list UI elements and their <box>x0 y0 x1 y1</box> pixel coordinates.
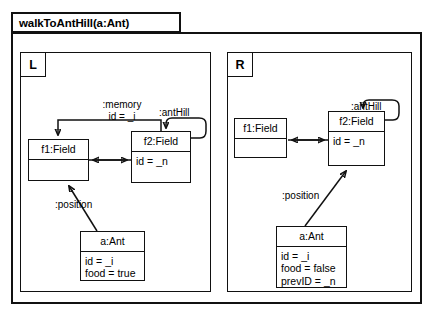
object-l-f1-field[interactable]: f1:Field <box>28 139 89 181</box>
object-l-f2-field[interactable]: f2:Field id = _n <box>131 131 191 183</box>
edge-label-l-memory: :memory id = _i <box>80 99 164 122</box>
object-r-f2-field-attrs: id = _n <box>329 132 384 151</box>
object-r-a-ant-name: a:Ant <box>277 227 346 247</box>
panel-lhs-tag: L <box>20 52 46 77</box>
edge-label-l-memory-role: :memory <box>80 99 164 111</box>
object-r-f1-field[interactable]: f1:Field <box>234 118 287 158</box>
edge-label-r-position: :position <box>282 190 319 202</box>
attribute-row: id = _n <box>333 135 380 148</box>
object-r-f2-field[interactable]: f2:Field id = _n <box>328 111 385 166</box>
object-l-f1-field-name: f1:Field <box>29 140 88 160</box>
object-l-a-ant[interactable]: a:Ant id = _i food = true <box>80 231 145 281</box>
attribute-row: id = _i <box>281 250 342 263</box>
panel-rhs-tag: R <box>227 52 253 77</box>
edge-label-r-anthill: :antHill <box>351 101 382 113</box>
attribute-row: food = true <box>85 267 140 280</box>
object-l-f1-field-attrs <box>29 160 88 180</box>
object-r-f1-field-name: f1:Field <box>235 119 286 139</box>
object-r-f1-field-attrs <box>235 139 286 159</box>
panel-rhs-tag-label: R <box>235 58 244 72</box>
object-l-a-ant-attrs: id = _i food = true <box>81 252 144 283</box>
operation-title-tab: walkToAntHill(a:Ant) <box>11 12 181 33</box>
diagram-canvas: walkToAntHill(a:Ant) L f1:Field f2:Field… <box>0 0 436 323</box>
edge-label-l-position: :position <box>55 199 92 211</box>
attribute-row: prevID = _n <box>281 275 342 288</box>
attribute-row: id = _n <box>136 155 186 168</box>
edge-label-l-memory-value: id = _i <box>80 111 164 123</box>
object-r-a-ant-attrs: id = _i food = false prevID = _n <box>277 247 346 291</box>
object-r-f2-field-name: f2:Field <box>329 112 384 132</box>
attribute-row: food = false <box>281 262 342 275</box>
object-l-f2-field-name: f2:Field <box>132 132 190 152</box>
object-l-f2-field-attrs: id = _n <box>132 152 190 171</box>
object-r-a-ant[interactable]: a:Ant id = _i food = false prevID = _n <box>276 226 347 288</box>
object-l-a-ant-name: a:Ant <box>81 232 144 252</box>
edge-label-l-anthill: :antHill <box>159 107 190 119</box>
page-title: walkToAntHill(a:Ant) <box>19 17 129 29</box>
panel-lhs-tag-label: L <box>29 58 37 72</box>
attribute-row: id = _i <box>85 255 140 268</box>
